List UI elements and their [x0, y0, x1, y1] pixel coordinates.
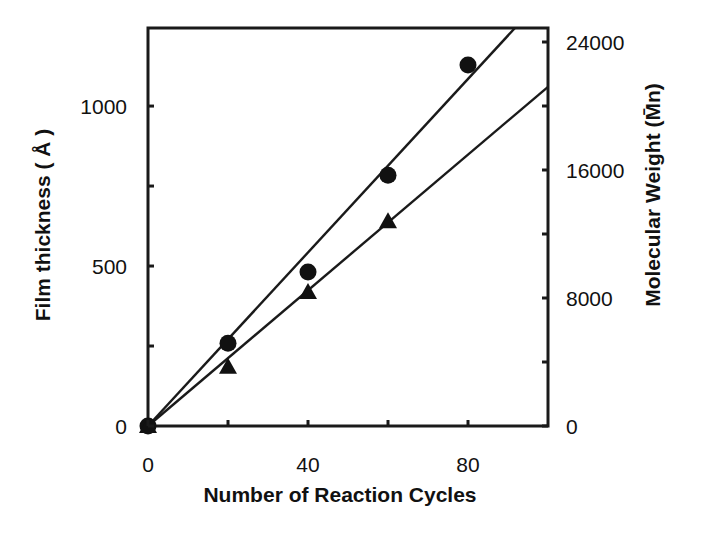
x-tick-label: 80 [456, 453, 479, 476]
plot-border [148, 28, 548, 426]
y2-tick-label: 0 [566, 415, 578, 438]
circle-marker [380, 167, 397, 184]
triangle-marker [219, 358, 237, 374]
data-markers [139, 57, 477, 435]
circle-marker [300, 264, 317, 281]
fit-line-triangle [148, 87, 548, 426]
y2-tick-label: 16000 [566, 159, 624, 182]
circle-marker [460, 57, 477, 74]
fit-line-circle [148, 28, 515, 426]
y-tick-label: 0 [115, 415, 127, 438]
y-tick-label: 1000 [80, 95, 127, 118]
plot-frame [148, 28, 548, 426]
y2-tick-label: 24000 [566, 31, 624, 54]
fit-lines [148, 28, 548, 426]
y2-axis-title: Molecular Weight (M̄n) [641, 83, 664, 307]
chart: 0408005001000080001600024000Number of Re… [0, 0, 709, 535]
x-tick-label: 40 [296, 453, 319, 476]
y-axis-title: Film thickness ( Å ) [31, 129, 54, 322]
x-axis-title: Number of Reaction Cycles [203, 483, 476, 506]
y-tick-label: 500 [92, 255, 127, 278]
axis-ticks [148, 42, 548, 426]
triangle-marker [379, 212, 397, 228]
x-tick-label: 0 [142, 453, 154, 476]
axis-labels: 0408005001000080001600024000Number of Re… [31, 31, 664, 506]
circle-marker [220, 335, 237, 352]
y2-tick-label: 8000 [566, 287, 613, 310]
